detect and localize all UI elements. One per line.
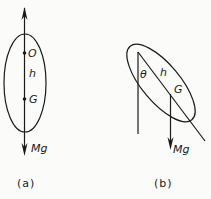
pendulum-diagram: O h G Mg (a) θ h G Mg (b) xyxy=(0,0,211,199)
label-o: O xyxy=(28,47,37,60)
figure-b: θ h G Mg (b) xyxy=(116,34,207,190)
label-mg: Mg xyxy=(31,142,47,155)
center-of-mass-g xyxy=(23,97,27,101)
caption-b: (b) xyxy=(154,177,173,190)
label-g-b: G xyxy=(174,83,183,96)
pivot-point-o xyxy=(23,51,27,55)
label-h-b: h xyxy=(160,66,167,79)
label-g: G xyxy=(29,93,38,106)
figure-a: O h G Mg (a) xyxy=(4,7,47,190)
label-h: h xyxy=(29,67,36,80)
caption-a: (a) xyxy=(17,177,35,190)
label-mg-b: Mg xyxy=(173,143,189,156)
label-theta: θ xyxy=(140,68,147,81)
